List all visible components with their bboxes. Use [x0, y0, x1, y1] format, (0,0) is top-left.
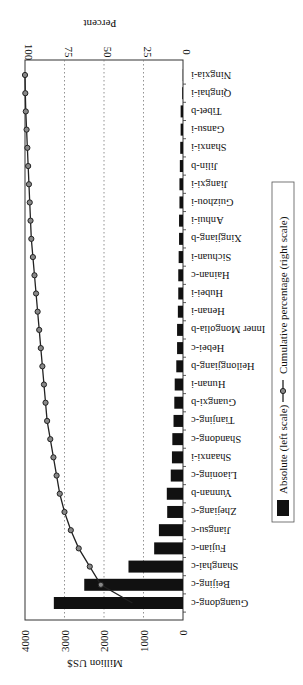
category-label: Jiangsu-c: [191, 525, 231, 536]
category-label: Henan-i: [191, 306, 225, 317]
bar: [174, 397, 183, 409]
legend-bar-swatch: [277, 500, 289, 516]
bar: [54, 597, 183, 609]
bar: [179, 178, 183, 190]
category-label: Guangdong-c: [191, 598, 248, 609]
category-label: Anhui-i: [191, 215, 224, 226]
bar: [180, 160, 183, 172]
bar: [178, 306, 183, 318]
category-label: Gansu-i: [191, 124, 224, 135]
category-label: Liaoning-c: [191, 470, 237, 481]
pareto-chart: 01000200030004000Million US$0255075100Pe…: [0, 0, 303, 685]
cumulative-marker: [30, 254, 35, 259]
category-label: Xingjiang-b: [191, 233, 242, 244]
cumulative-marker: [54, 473, 59, 478]
right-axis-tick-label: 0: [181, 49, 193, 55]
bar: [172, 451, 183, 463]
cumulative-marker: [51, 455, 56, 460]
cumulative-marker: [26, 163, 31, 168]
category-label: Shaanxi-i: [191, 452, 231, 463]
right-axis-tick-label: 100: [23, 44, 35, 61]
cumulative-marker: [40, 364, 45, 369]
category-label: Yunnan-b: [191, 488, 232, 499]
left-axis-title: Million US$: [67, 658, 123, 670]
cumulative-marker: [28, 218, 33, 223]
cumulative-marker: [32, 273, 37, 278]
bar: [179, 251, 183, 263]
bar: [179, 233, 183, 245]
bar: [176, 360, 183, 372]
bar: [167, 488, 183, 500]
legend-label-cumulative: Cumulative percentage (right scale): [277, 216, 290, 374]
bar: [167, 506, 183, 518]
category-label: Shanxi-i: [191, 142, 227, 153]
cumulative-marker: [45, 418, 50, 423]
cumulative-marker: [43, 400, 48, 405]
category-label: Fujian-c: [191, 543, 226, 554]
category-label: Hubei-i: [191, 288, 223, 299]
category-label: Zhejiang-c: [191, 506, 237, 517]
category-label: Shanghai-c: [191, 561, 239, 572]
bar: [159, 524, 183, 536]
cumulative-marker: [26, 182, 31, 187]
cumulative-marker: [23, 91, 28, 96]
category-label: Guizhou-i: [191, 197, 234, 208]
bar: [180, 142, 183, 154]
category-label: Sichuan-i: [191, 252, 231, 263]
cumulative-marker: [23, 109, 28, 114]
bar: [171, 470, 183, 482]
left-axis-tick-label: 3000: [59, 630, 71, 653]
category-label: Tianjing-c: [191, 415, 235, 426]
category-label: Guangxi-b: [191, 397, 236, 408]
bar: [177, 342, 183, 354]
left-axis-tick-label: 0: [177, 630, 189, 636]
cumulative-marker: [98, 582, 103, 587]
cumulative-marker: [24, 127, 29, 132]
cumulative-marker: [22, 72, 27, 77]
left-axis-tick-label: 1000: [138, 630, 150, 653]
category-label: Inner Mongolia-b: [191, 324, 265, 335]
cumulative-marker: [35, 309, 40, 314]
category-label: Ningxia-i: [191, 70, 231, 81]
bar: [177, 324, 183, 336]
cumulative-marker: [68, 528, 73, 533]
cumulative-marker: [29, 236, 34, 241]
cumulative-marker: [57, 491, 62, 496]
category-label: Qinghai-i: [191, 88, 231, 99]
cumulative-line: [25, 75, 132, 603]
bar: [178, 287, 183, 299]
cumulative-marker: [25, 145, 30, 150]
cumulative-marker: [41, 382, 46, 387]
bar: [181, 124, 183, 136]
bar: [174, 415, 183, 427]
cumulative-marker: [38, 346, 43, 351]
category-label: Jilin-b: [191, 161, 218, 172]
bar: [179, 215, 183, 227]
category-label: Hebei-c: [191, 343, 225, 354]
cumulative-marker: [27, 200, 32, 205]
legend-marker-icon: [280, 388, 285, 393]
bar: [175, 379, 183, 391]
bar: [128, 561, 183, 573]
bar: [154, 542, 183, 554]
category-label: Beijing-c: [191, 579, 230, 590]
cumulative-marker: [33, 291, 38, 296]
cumulative-marker: [62, 509, 67, 514]
bar: [181, 105, 183, 117]
legend-label-absolute: Absolute (left scale): [277, 404, 290, 494]
category-label: Heilongjiang-b: [191, 361, 255, 372]
category-label: Shandong-c: [191, 434, 241, 445]
bar: [182, 87, 183, 99]
bar: [179, 196, 183, 208]
cumulative-marker: [76, 546, 81, 551]
category-label: Hunan-i: [191, 379, 225, 390]
right-axis-tick-label: 25: [142, 47, 154, 59]
cumulative-marker: [87, 564, 92, 569]
category-label: Jiangxi-i: [191, 179, 228, 190]
right-axis-tick-label: 50: [102, 47, 114, 59]
category-label: Hainan-c: [191, 270, 230, 281]
bar: [172, 433, 183, 445]
category-label: Tibet-b: [191, 106, 222, 117]
left-axis-tick-label: 2000: [98, 630, 110, 653]
right-axis-tick-label: 75: [63, 47, 75, 59]
